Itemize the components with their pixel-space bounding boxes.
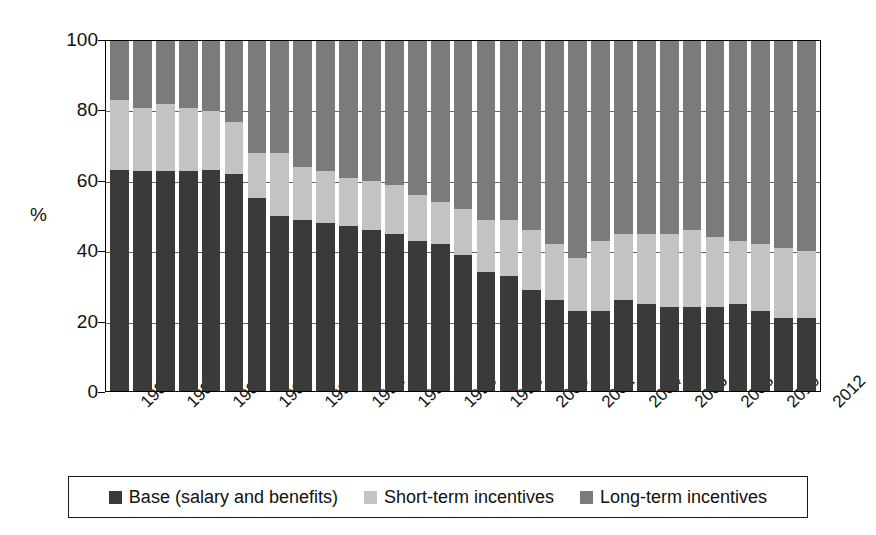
bar-segment-short-term — [568, 258, 587, 311]
bar-stack — [706, 41, 725, 391]
y-axis-tick-label: 0 — [46, 381, 98, 403]
bar-stack — [316, 41, 335, 391]
bar-segment-short-term — [454, 209, 473, 255]
legend-label: Base (salary and benefits) — [129, 487, 338, 508]
bar-segment-short-term — [729, 241, 748, 304]
bar-segment-long-term — [774, 41, 793, 248]
y-axis-tick-labels: 020406080100 — [40, 0, 98, 535]
bar-stack — [202, 41, 221, 391]
bar-segment-base — [408, 241, 427, 392]
bar-stack — [774, 41, 793, 391]
x-axis-tick-label: 2008 — [737, 398, 751, 412]
bar-segment-short-term — [797, 251, 816, 318]
bar-segment-base — [385, 234, 404, 392]
bar-segment-short-term — [660, 234, 679, 308]
bar-segment-short-term — [110, 100, 129, 170]
bar-segment-long-term — [637, 41, 656, 234]
y-axis-tick-mark — [98, 181, 105, 182]
bar-segment-base — [729, 304, 748, 392]
bar-segment-base — [568, 311, 587, 392]
bar-segment-short-term — [293, 167, 312, 220]
bar-segment-short-term — [156, 104, 175, 171]
legend-swatch-long-term — [580, 491, 593, 504]
bar-stack — [225, 41, 244, 391]
x-axis-tick-label: 2002 — [598, 398, 612, 412]
bar-segment-base — [706, 307, 725, 391]
bar-segment-long-term — [225, 41, 244, 122]
bar-segment-short-term — [545, 244, 564, 300]
x-axis-tick-label: 1996 — [460, 398, 474, 412]
bar-segment-base — [477, 272, 496, 391]
bar-segment-long-term — [385, 41, 404, 185]
bar-stack — [293, 41, 312, 391]
bar-segment-base — [660, 307, 679, 391]
bar-segment-base — [110, 170, 129, 391]
bar-segment-short-term — [270, 153, 289, 216]
bar-segment-base — [202, 170, 221, 391]
bar-segment-long-term — [316, 41, 335, 171]
bar-segment-base — [270, 216, 289, 391]
bar-segment-short-term — [179, 108, 198, 171]
bar-stack — [660, 41, 679, 391]
bar-segment-short-term — [339, 178, 358, 227]
bar-stack — [591, 41, 610, 391]
bar-segment-short-term — [133, 108, 152, 171]
legend-item: Long-term incentives — [580, 487, 767, 508]
x-axis-tick-label: 1994 — [414, 398, 428, 412]
bar-stack — [454, 41, 473, 391]
bar-stack — [339, 41, 358, 391]
bar-segment-short-term — [637, 234, 656, 304]
bar-segment-base — [637, 304, 656, 392]
bar-segment-base — [797, 318, 816, 392]
bar-segment-short-term — [362, 181, 381, 230]
bar-segment-short-term — [591, 241, 610, 311]
y-axis-tick-label: 40 — [46, 240, 98, 262]
bar-stack — [751, 41, 770, 391]
bar-segment-base — [339, 226, 358, 391]
bar-segment-base — [316, 223, 335, 391]
bar-segment-base — [293, 220, 312, 392]
bar-stack — [408, 41, 427, 391]
bar-segment-long-term — [202, 41, 221, 111]
bar-segment-long-term — [270, 41, 289, 153]
bar-segment-long-term — [454, 41, 473, 209]
bar-segment-long-term — [751, 41, 770, 244]
bar-stack — [431, 41, 450, 391]
x-axis-tick-label: 2000 — [552, 398, 566, 412]
x-axis-tick-label: 2004 — [645, 398, 659, 412]
bar-segment-short-term — [408, 195, 427, 240]
x-axis-tick-label: 1982 — [137, 398, 151, 412]
legend-item: Short-term incentives — [364, 487, 554, 508]
bar-stack — [248, 41, 267, 391]
y-axis-tick-label: 60 — [46, 170, 98, 192]
bar-segment-base — [179, 171, 198, 392]
x-axis-tick-label: 1992 — [368, 398, 382, 412]
x-axis-tick-label: 2006 — [691, 398, 705, 412]
bar-stack — [729, 41, 748, 391]
bar-segment-base — [225, 174, 244, 391]
bar-segment-base — [683, 307, 702, 391]
bar-stack — [545, 41, 564, 391]
x-axis-tick-label: 1988 — [275, 398, 289, 412]
bar-segment-long-term — [500, 41, 519, 220]
bar-segment-base — [545, 300, 564, 391]
bar-stack — [362, 41, 381, 391]
bar-stack — [683, 41, 702, 391]
bar-segment-short-term — [500, 220, 519, 276]
bar-stack — [477, 41, 496, 391]
bar-segment-short-term — [225, 122, 244, 175]
bar-segment-long-term — [545, 41, 564, 244]
y-axis-tick-label: 20 — [46, 311, 98, 333]
bar-series-group — [106, 41, 820, 391]
chart-legend: Base (salary and benefits)Short-term inc… — [68, 476, 808, 518]
bar-segment-short-term — [751, 244, 770, 311]
bar-segment-long-term — [660, 41, 679, 234]
bar-segment-base — [614, 300, 633, 391]
bar-segment-long-term — [683, 41, 702, 230]
bar-segment-long-term — [591, 41, 610, 241]
bar-segment-base — [751, 311, 770, 392]
plot-area — [105, 40, 821, 392]
bar-segment-long-term — [339, 41, 358, 178]
bar-segment-long-term — [797, 41, 816, 251]
bar-segment-base — [591, 311, 610, 392]
